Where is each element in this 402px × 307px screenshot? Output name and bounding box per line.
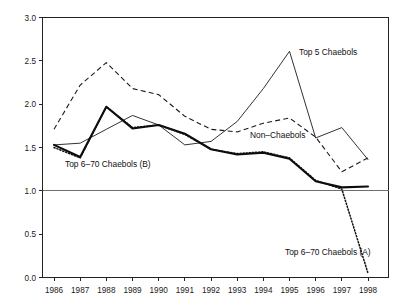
x-tick-label: 1990 xyxy=(150,286,169,295)
line-chart: 0.00.51.01.52.02.53.0 198619871988198919… xyxy=(0,0,402,307)
top670a-label: Top 6–70 Chaebols (A) xyxy=(285,247,371,257)
x-tick-label: 1995 xyxy=(280,286,299,295)
y-tick-label: 1.0 xyxy=(25,187,37,196)
x-axis-ticks: 1986198719881989199019911992199319941995… xyxy=(45,278,378,295)
x-tick-label: 1998 xyxy=(359,286,378,295)
y-axis-ticks: 0.00.51.01.52.02.53.0 xyxy=(25,14,43,283)
nonchaebols-label: Non–Chaebols xyxy=(250,130,305,140)
x-tick-label: 1996 xyxy=(307,286,326,295)
y-tick-label: 1.5 xyxy=(25,144,37,153)
chart-container: 0.00.51.01.52.02.53.0 198619871988198919… xyxy=(0,0,402,307)
series-annotations: Top 5 ChaebolsNon–ChaebolsTop 6–70 Chaeb… xyxy=(65,47,371,257)
top670b-label: Top 6–70 Chaebols (B) xyxy=(65,159,151,169)
series-line-top-6-70-chaebols-b xyxy=(54,107,368,188)
y-tick-label: 0.5 xyxy=(25,230,37,239)
x-tick-label: 1986 xyxy=(45,286,64,295)
x-tick-label: 1991 xyxy=(176,286,195,295)
x-tick-label: 1988 xyxy=(97,286,116,295)
top5-label: Top 5 Chaebols xyxy=(299,47,357,57)
x-tick-label: 1989 xyxy=(123,286,142,295)
y-tick-label: 0.0 xyxy=(25,274,37,283)
x-tick-label: 1987 xyxy=(71,286,90,295)
x-tick-label: 1997 xyxy=(333,286,352,295)
y-tick-label: 2.0 xyxy=(25,100,37,109)
x-tick-label: 1994 xyxy=(254,286,273,295)
y-tick-label: 3.0 xyxy=(25,14,37,23)
x-tick-label: 1992 xyxy=(202,286,221,295)
x-tick-label: 1993 xyxy=(228,286,247,295)
y-tick-label: 2.5 xyxy=(25,57,37,66)
